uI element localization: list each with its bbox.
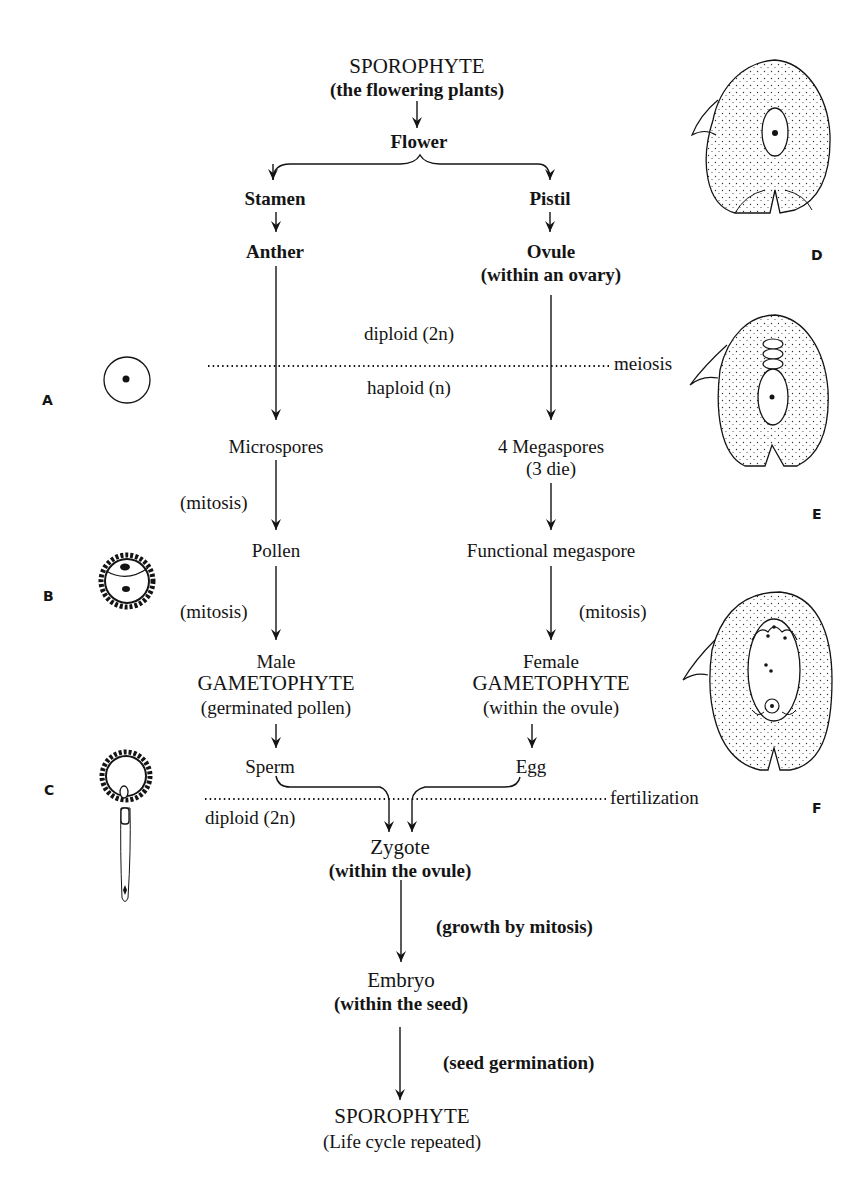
figure-label-b: B: [43, 588, 54, 604]
figure-a-microspore-icon: [104, 357, 150, 403]
zygote-node: Zygote: [370, 837, 429, 858]
anther-node: Anther: [246, 241, 304, 262]
diagram-connectors: [0, 0, 861, 1193]
male-gametophyte-node: GAMETOPHYTE: [197, 673, 354, 694]
microspores-node: Microspores: [229, 436, 324, 457]
sporophyte-title: SPOROPHYTE: [349, 56, 484, 77]
sperm-node: Sperm: [245, 756, 295, 777]
figure-label-e: E: [812, 506, 822, 522]
haploid-label: haploid (n): [367, 377, 451, 398]
female-gametophyte-subtitle: (within the ovule): [483, 697, 619, 718]
zygote-subtitle: (within the ovule): [329, 860, 472, 881]
sporophyte-bottom-subtitle: (Life cycle repeated): [323, 1131, 481, 1152]
figure-d-ovule-icon: [692, 60, 830, 213]
mitosis-label-2: (mitosis): [180, 601, 248, 622]
mitosis-label-1: (mitosis): [180, 492, 248, 513]
stamen-node: Stamen: [244, 188, 305, 209]
mitosis-label-female: (mitosis): [579, 601, 647, 622]
ovule-node: Ovule: [527, 241, 576, 262]
embryo-subtitle: (within the seed): [334, 993, 468, 1014]
functional-megaspore-node: Functional megaspore: [467, 540, 635, 561]
seed-germination-label: (seed germination): [443, 1052, 594, 1073]
pistil-node: Pistil: [529, 188, 570, 209]
meiosis-label: meiosis: [614, 353, 672, 374]
diploid-label-top: diploid (2n): [364, 323, 454, 344]
ovule-subtitle: (within an ovary): [481, 264, 621, 285]
figure-label-f: F: [812, 800, 822, 816]
male-gametophyte-subtitle: (germinated pollen): [201, 697, 351, 718]
megaspores-node: 4 Megaspores: [498, 436, 604, 457]
figure-label-c: C: [44, 782, 54, 798]
brace-to-pistil: [273, 155, 550, 180]
pollen-node: Pollen: [252, 540, 301, 561]
diploid-label-bottom: diploid (2n): [205, 807, 295, 828]
sporophyte-bottom-node: SPOROPHYTE: [334, 1106, 469, 1127]
figure-b-pollen-icon: [101, 555, 153, 607]
flower-node: Flower: [391, 131, 448, 152]
figure-label-a: A: [42, 392, 53, 408]
male-label: Male: [256, 651, 295, 672]
embryo-node: Embryo: [367, 970, 435, 991]
female-label: Female: [523, 651, 579, 672]
sporophyte-subtitle: (the flowering plants): [330, 79, 504, 100]
figure-c-germinated-pollen-icon: [102, 752, 150, 902]
figure-e-megaspore-ovule-icon: [690, 315, 828, 466]
female-gametophyte-node: GAMETOPHYTE: [472, 673, 629, 694]
fertilization-label: fertilization: [610, 787, 699, 808]
figure-label-d: D: [811, 247, 823, 263]
egg-node: Egg: [516, 756, 547, 777]
growth-by-mitosis-label: (growth by mitosis): [436, 916, 593, 937]
megaspores-subtitle: (3 die): [526, 458, 576, 479]
figure-f-embryo-sac-icon: [683, 592, 832, 770]
arrow-egg-zygote: [412, 777, 520, 832]
